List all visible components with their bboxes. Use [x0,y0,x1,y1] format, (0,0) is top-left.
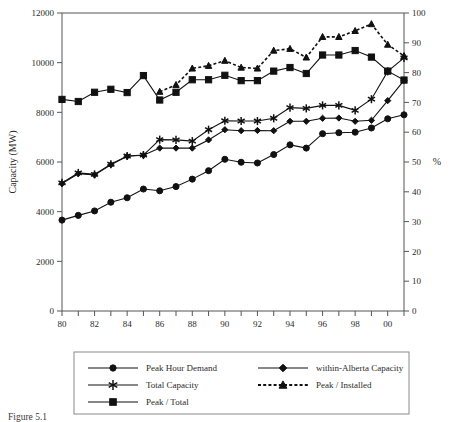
legend-marker-circle-icon [110,365,116,371]
right-axis-title: % [433,156,441,167]
data-point-marker [287,142,293,148]
data-point-marker [303,70,309,76]
right-tick-label: 0 [412,306,417,316]
right-tick-label: 70 [412,98,422,108]
legend-label: within-Alberta Capacity [316,363,404,373]
data-point-marker [401,112,407,118]
legend-label: Peak / Installed [316,380,372,390]
data-point-marker [368,125,374,131]
data-point-marker [189,176,195,182]
chart-legend: Peak Hour Demandwithin-Alberta CapacityT… [74,352,409,414]
data-point-marker [59,217,65,223]
data-point-marker [271,152,277,158]
data-point-marker [319,52,325,58]
data-point-marker [140,186,146,192]
x-tick-label: 86 [155,319,165,329]
x-tick-label: 00 [383,319,393,329]
right-tick-label: 20 [412,247,422,257]
right-tick-label: 60 [412,127,422,137]
data-point-marker [91,89,97,95]
x-tick-label: 90 [220,319,230,329]
data-point-marker [336,52,342,58]
data-point-marker [75,98,81,104]
data-point-marker [401,77,407,83]
left-tick-label: 2000 [36,257,55,267]
data-point-marker [108,86,114,92]
x-tick-label: 84 [123,319,133,329]
data-point-marker [222,156,228,162]
data-point-marker [368,54,374,60]
data-point-marker [124,195,130,201]
x-tick-label: 88 [188,319,198,329]
data-point-marker [173,184,179,190]
data-point-marker [352,129,358,135]
data-point-marker [222,72,228,78]
data-point-marker [75,212,81,218]
figure-container: 020004000600080001000012000 010203040506… [0,0,457,422]
data-point-marker [238,159,244,165]
data-point-marker [271,68,277,74]
data-point-marker [336,130,342,136]
right-tick-label: 90 [412,38,422,48]
data-point-marker [173,89,179,95]
data-point-marker [352,47,358,53]
data-point-marker [238,78,244,84]
data-point-marker [385,68,391,74]
legend-marker-square-icon [110,399,117,406]
data-point-marker [385,116,391,122]
data-point-marker [108,199,114,205]
data-point-marker [287,64,293,70]
x-tick-label: 92 [253,319,262,329]
left-tick-label: 0 [50,306,55,316]
left-axis-title: Capacity (MW) [7,130,19,193]
data-point-marker [205,77,211,83]
data-point-marker [157,188,163,194]
data-point-marker [189,77,195,83]
right-tick-label: 80 [412,68,422,78]
data-point-marker [59,96,65,102]
capacity-demand-line-chart: 020004000600080001000012000 010203040506… [0,0,457,422]
legend-label: Peak Hour Demand [146,363,217,373]
x-tick-label: 80 [58,319,68,329]
data-point-marker [124,89,130,95]
figure-caption: Figure 5.1 [8,412,47,422]
right-tick-label: 40 [412,187,422,197]
right-tick-label: 50 [412,157,422,167]
data-point-marker [140,72,146,78]
x-tick-label: 94 [286,319,296,329]
right-tick-label: 30 [412,217,422,227]
legend-label: Peak / Total [146,397,189,407]
left-tick-label: 4000 [36,207,55,217]
data-point-marker [157,97,163,103]
data-point-marker [206,168,212,174]
right-tick-label: 10 [412,276,422,286]
left-tick-label: 10000 [32,58,55,68]
data-point-marker [254,78,260,84]
x-tick-label: 98 [351,319,361,329]
left-tick-label: 6000 [36,157,55,167]
left-tick-label: 8000 [36,108,55,118]
data-point-marker [254,160,260,166]
data-point-marker [303,145,309,151]
x-tick-label: 96 [318,319,328,329]
data-point-marker [320,131,326,137]
legend-label: Total Capacity [146,380,199,390]
left-tick-label: 12000 [32,8,55,18]
x-tick-label: 82 [90,319,99,329]
data-point-marker [92,208,98,214]
right-tick-label: 100 [412,8,426,18]
